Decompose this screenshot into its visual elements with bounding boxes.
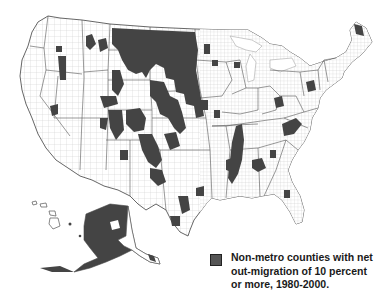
legend-line-2: out-migration of 10 percent bbox=[231, 265, 373, 279]
legend-swatch-icon bbox=[210, 254, 222, 266]
contiguous-us bbox=[20, 16, 380, 240]
legend-label: Non-metro counties with net out-migratio… bbox=[231, 251, 373, 292]
alaska bbox=[40, 204, 160, 272]
hawaii bbox=[32, 201, 60, 229]
legend-line-1: Non-metro counties with net bbox=[231, 251, 373, 265]
legend-line-3: or more, 1980-2000. bbox=[231, 278, 373, 292]
